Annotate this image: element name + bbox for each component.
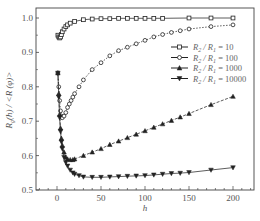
legend-item: R2 / R1 = 100 [171,53,238,64]
data-series [56,16,236,179]
x-tick-label: 200 [226,193,240,203]
x-tick-label: 50 [97,193,107,203]
y-tick-label: 0.9 [22,47,34,57]
legend-item: R2 / R1 = 10000 [171,74,246,85]
plot-frame [36,8,254,190]
series-4 [56,71,236,179]
y-tick-label: 0.6 [22,151,34,161]
legend-item: R2 / R1 = 10 [171,42,234,53]
legend-label: R2 / R1 = 1000 [192,63,242,74]
chart: 0.50.60.70.80.91.0 050100150200 h Rg(h) … [0,0,260,221]
legend-item: R2 / R1 = 1000 [171,63,242,74]
x-axis: 050100150200 [39,186,250,203]
y-tick-label: 0.7 [22,116,34,126]
y-axis-label: Rg(h) / <R (φ)> [4,72,15,130]
legend-label: R2 / R1 = 10 [192,42,234,53]
x-axis-label: h [143,203,148,213]
y-tick-label: 0.8 [22,82,34,92]
series-1 [56,16,235,40]
legend-label: R2 / R1 = 100 [192,53,238,64]
legend-label: R2 / R1 = 10000 [192,74,246,85]
x-tick-label: 150 [182,193,196,203]
series-3 [56,71,236,162]
legend: R2 / R1 = 10R2 / R1 = 100R2 / R1 = 1000R… [171,42,246,85]
y-tick-label: 0.5 [22,185,34,195]
y-tick-label: 1.0 [22,13,34,23]
x-tick-label: 100 [138,193,152,203]
x-tick-label: 0 [55,193,60,203]
